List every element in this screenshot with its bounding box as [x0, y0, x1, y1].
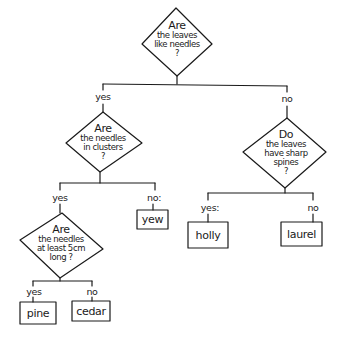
leaf-holly: holly: [188, 222, 228, 248]
root-question: Are the leaves like needles ?: [154, 20, 200, 58]
root-question-line-4: ?: [154, 49, 200, 58]
length-yes-label: yes: [26, 287, 42, 297]
length-question: Are the needles at least 5cm long ?: [37, 224, 85, 262]
leaf-laurel: laurel: [281, 222, 322, 246]
spines-question-line-5: ?: [264, 167, 307, 176]
leaf-cedar: cedar: [72, 301, 110, 321]
spines-no-label: no: [307, 203, 318, 213]
clusters-question-line-4: ?: [80, 152, 126, 161]
root-no-label: no: [281, 94, 292, 104]
leaf-pine: pine: [20, 302, 56, 324]
clusters-no-label: no:: [147, 193, 161, 203]
spines-question: Do the leaves have sharp spines ?: [264, 129, 307, 176]
spines-yes-label: yes:: [201, 203, 219, 213]
root-yes-label: yes: [95, 92, 111, 102]
leaf-yew: yew: [137, 210, 168, 229]
length-no-label: no: [86, 287, 97, 297]
length-question-line-4: long ?: [37, 253, 85, 262]
clusters-question: Are the needles in clusters ?: [80, 123, 126, 161]
clusters-yes-label: yes: [52, 193, 68, 203]
